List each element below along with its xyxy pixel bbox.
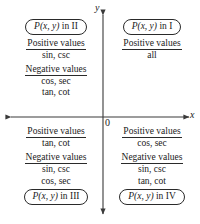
quadrant-2-point-label: P(x, y) in II [25,19,87,35]
quadrant-3-positive-group: Positive values tan, cot [26,126,85,150]
x-axis-label: x [190,110,194,120]
group-value: sin, csc [42,164,70,175]
quadrant-2-negative-group: Negative values cos, sec tan, cot [25,64,88,99]
group-header: Positive values [26,126,85,138]
group-value: tan, cot [138,176,166,187]
point-label-args: (x, y) [38,191,58,201]
diagram-canvas: x y 0 P(x, y) in II Positive values sin,… [0,0,200,224]
quadrant-4-negative-group: Negative values sin, csc tan, cot [121,152,184,187]
point-label-args: (x, y) [134,191,154,201]
quadrant-4-positive-group: Positive values cos, sec [122,126,181,150]
quadrant-2-block: P(x, y) in II Positive values sin, csc N… [14,19,98,99]
quadrant-1-block: P(x, y) in I Positive values all [110,19,194,62]
quadrant-4-block: Positive values cos, sec Negative values… [110,126,194,205]
point-label-suffix: in I [159,21,172,31]
group-value: tan, cot [42,87,70,98]
point-label-args: (x, y) [40,21,60,31]
group-value: tan, cot [42,138,70,149]
group-header: Positive values [26,38,85,50]
group-value: cos, sec [41,76,71,87]
point-label-suffix: in II [62,21,78,31]
group-header: Negative values [25,152,88,164]
quadrant-1-positive-group: Positive values all [122,38,181,62]
quadrant-3-negative-group: Negative values sin, csc cos, sec [25,152,88,187]
group-value: cos, sec [137,138,167,149]
y-axis-label: y [95,3,99,13]
quadrant-2-positive-group: Positive values sin, csc [26,38,85,62]
group-header: Negative values [25,64,88,76]
quadrant-3-point-label: P(x, y) in III [24,189,89,205]
quadrant-4-point-label: P(x, y) in IV [119,189,185,205]
point-label-suffix: in IV [156,191,176,201]
quadrant-3-block: Positive values tan, cot Negative values… [14,126,98,205]
group-value: cos, sec [41,176,71,187]
group-header: Positive values [122,126,181,138]
quadrant-1-point-label: P(x, y) in I [123,19,182,35]
group-value: sin, csc [42,50,70,61]
point-label-args: (x, y) [137,21,157,31]
group-value: sin, csc [138,164,166,175]
point-label-suffix: in III [60,191,79,201]
group-header: Negative values [121,152,184,164]
group-header: Positive values [122,38,181,50]
group-value: all [147,50,157,61]
